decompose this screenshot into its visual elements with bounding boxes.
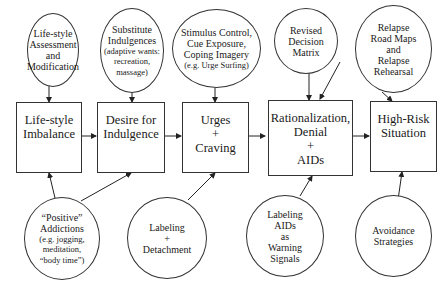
circle-text: Cue Exposure,	[187, 38, 246, 49]
box-text: Life-style	[25, 113, 74, 127]
circle-text: Revised	[290, 25, 322, 36]
circle-text: “Positive”	[41, 212, 82, 223]
circle-text: Substitute	[112, 24, 152, 35]
circle-text: Coping Imagery	[184, 49, 249, 60]
circle-text: Matrix	[292, 47, 319, 58]
box-text: +	[212, 127, 219, 141]
box-text: Indulgence	[103, 127, 159, 141]
circle-text: +	[164, 233, 170, 244]
circle-positive-addictions: “Positive” Addictions (e.g. jogging, med…	[24, 197, 100, 280]
box-text: Urges	[201, 113, 231, 127]
box-lifestyle-imbalance: Life-style Imbalance	[16, 102, 82, 173]
box-text: Rationalization,	[271, 111, 351, 125]
circle-relapse-road-maps: Relapse Road Maps and Relapse Rehearsal	[355, 5, 432, 93]
circle-text: Strategies	[374, 236, 413, 247]
box-text: Situation	[381, 126, 426, 140]
circle-revised-decision-matrix: Revised Decision Matrix	[274, 8, 338, 74]
circle-text: Labeling	[149, 222, 185, 233]
circle-text-small: massage)	[116, 67, 148, 78]
box-desire-for-indulgence: Desire for Indulgence	[97, 102, 165, 173]
circle-text: Relapse	[378, 22, 410, 33]
box-rationalization: Rationalization, Denial + AIDs	[268, 100, 353, 176]
circle-text: Detachment	[143, 244, 191, 255]
circle-text-small: (e.g. Urge Surfing)	[184, 60, 249, 71]
circle-text: Avoidance	[372, 225, 415, 236]
box-text: AIDs	[297, 153, 324, 167]
box-high-risk-situation: High-Risk Situation	[370, 101, 437, 172]
circle-text-small: (e.g. jogging,	[39, 234, 84, 245]
circle-text: as	[281, 231, 289, 242]
circle-text: Indulgences	[108, 35, 156, 46]
circle-labeling-detachment: Labeling + Detachment	[127, 197, 207, 279]
circle-text: AIDs	[274, 220, 296, 231]
box-text: +	[307, 139, 314, 153]
circle-text: Signals	[270, 253, 299, 264]
circle-text: Decision	[288, 36, 324, 47]
circle-labeling-aids: Labeling AIDs as Warning Signals	[246, 195, 324, 277]
circle-lifestyle-assessment: Life-style Assessment and Modification	[27, 13, 79, 87]
circle-text: Labeling	[267, 209, 303, 220]
box-text: Imbalance	[23, 127, 75, 141]
circle-avoidance-strategies: Avoidance Strategies	[355, 195, 432, 277]
box-text: Desire for	[106, 113, 156, 127]
circle-text: Addictions	[40, 223, 84, 234]
circle-text-small: “body time”)	[40, 255, 85, 266]
circle-text: Relapse	[378, 55, 410, 66]
circle-substitute-indulgences: Substitute Indulgences (adaptive wants: …	[100, 8, 164, 93]
circle-text: Modification	[27, 61, 79, 72]
box-text: High-Risk	[377, 112, 429, 126]
box-text: Denial	[294, 125, 327, 139]
box-text: Craving	[195, 141, 235, 155]
circle-text: Life-style	[34, 28, 73, 39]
circle-text: and	[46, 50, 60, 61]
circle-stimulus-control: Stimulus Control, Cue Exposure, Coping I…	[172, 9, 261, 88]
circle-text-small: meditation,	[43, 244, 81, 255]
circle-text: and	[386, 44, 400, 55]
circle-text-small: recreation,	[114, 56, 150, 67]
circle-text: Rehearsal	[374, 66, 413, 77]
circle-text-small: (adaptive wants:	[104, 46, 160, 57]
circle-text: Stimulus Control,	[181, 27, 252, 38]
circle-text: Road Maps	[371, 33, 417, 44]
circle-text: Assessment	[29, 39, 76, 50]
box-urges-craving: Urges + Craving	[182, 102, 249, 173]
circle-text: Warning	[268, 242, 302, 253]
